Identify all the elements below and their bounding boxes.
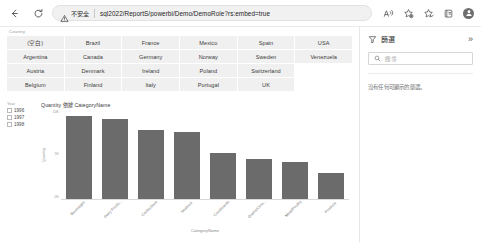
country-item[interactable]: Poland xyxy=(180,64,237,77)
browser-toolbar: 不安全 sql2022/ReportS/powerbi/Demo/DemoRol… xyxy=(0,0,481,26)
country-item[interactable]: Sweden xyxy=(238,50,295,63)
bar-slot[interactable] xyxy=(205,112,241,199)
filter-pane: 篩選 » 搜尋 沒有任何可顯示的篩選。 xyxy=(359,27,481,242)
year-checkbox[interactable] xyxy=(7,122,12,127)
reload-icon[interactable] xyxy=(30,5,46,21)
year-label: 1998 xyxy=(14,122,24,127)
favorites-icon[interactable] xyxy=(422,7,435,20)
filter-pane-empty-message: 沒有任何可顯示的篩選。 xyxy=(368,83,473,91)
bar-confections xyxy=(138,130,164,199)
bar-slot[interactable] xyxy=(169,112,205,199)
country-item[interactable]: Switzerland xyxy=(238,64,295,77)
x-tick-label: Meat/Poultry xyxy=(284,199,303,218)
country-item[interactable]: Norway xyxy=(180,50,237,63)
y-axis-title: Quantity xyxy=(42,148,46,162)
x-tick-label: Beverages xyxy=(69,200,86,217)
year-label: 1996 xyxy=(14,108,24,113)
add-to-favorites-icon[interactable] xyxy=(402,7,415,20)
y-tick-label: 5K xyxy=(47,152,59,156)
bar-slot[interactable] xyxy=(61,112,97,199)
country-item[interactable]: USA xyxy=(295,36,352,49)
country-item-empty xyxy=(295,64,352,77)
country-item[interactable]: Portugal xyxy=(180,78,237,91)
x-tick-label: Condiments xyxy=(212,199,230,217)
bar-slot[interactable] xyxy=(133,112,169,199)
country-item[interactable]: Denmark xyxy=(65,64,122,77)
x-tick-label: Confections xyxy=(140,199,158,217)
bar-dairy xyxy=(102,119,128,199)
read-aloud-icon[interactable] xyxy=(382,7,395,20)
filter-pane-header: 篩選 » xyxy=(368,34,473,44)
bars-container xyxy=(61,112,349,200)
avatar xyxy=(463,8,474,19)
country-item-empty xyxy=(295,78,352,91)
year-label: 1997 xyxy=(14,115,24,120)
bar-chart-visual: Year 1996 1997 1998 Quantity 依據 Category… xyxy=(7,101,352,237)
profile-avatar[interactable] xyxy=(462,7,475,20)
country-item[interactable]: UK xyxy=(238,78,295,91)
warning-triangle-icon xyxy=(60,9,69,18)
bar-condiments xyxy=(210,153,236,199)
address-bar[interactable]: 不安全 sql2022/ReportS/powerbi/Demo/DemoRol… xyxy=(52,5,372,21)
year-slicer-title: Year xyxy=(7,101,39,106)
x-axis-labels: Beverages Dairy Produ... Confections Sea… xyxy=(61,202,349,228)
x-tick-label: Seafood xyxy=(179,200,193,214)
x-tick-label: Grains/Cere... xyxy=(246,199,267,220)
y-tick-label: 10K xyxy=(47,110,59,114)
country-item[interactable]: Canada xyxy=(65,50,122,63)
bar-slot[interactable] xyxy=(277,112,313,199)
country-item[interactable]: Mexico xyxy=(180,36,237,49)
country-item[interactable]: Austria xyxy=(7,64,64,77)
bar-slot[interactable] xyxy=(97,112,133,199)
security-warning-label: 不安全 xyxy=(71,9,89,18)
year-slicer: Year 1996 1997 1998 xyxy=(7,101,39,129)
report-page: Country (空白) Brazil France Mexico Spain … xyxy=(0,27,359,242)
year-slicer-item[interactable]: 1997 xyxy=(7,115,39,120)
country-item[interactable]: Belgium xyxy=(7,78,64,91)
country-item[interactable]: Finland xyxy=(65,78,122,91)
filter-search-input[interactable]: 搜尋 xyxy=(368,52,473,65)
bar-meat-poultry xyxy=(282,162,308,199)
year-checkbox[interactable] xyxy=(7,115,12,120)
filter-search-placeholder: 搜尋 xyxy=(385,55,398,63)
country-item[interactable]: (空白) xyxy=(7,36,64,49)
country-item[interactable]: Italy xyxy=(122,78,179,91)
x-axis-title: CategoryName xyxy=(61,228,349,233)
chart-plot-area: Quantity 10K 5K 0K xyxy=(41,110,352,237)
url-text: sql2022/ReportS/powerbi/Demo/DemoRole?rs… xyxy=(100,10,270,17)
bar-slot[interactable] xyxy=(241,112,277,199)
bar-grains xyxy=(246,159,272,199)
chevron-double-right-icon[interactable]: » xyxy=(468,35,473,44)
search-icon xyxy=(374,55,381,62)
country-item[interactable]: Germany xyxy=(122,50,179,63)
back-arrow-icon[interactable] xyxy=(6,5,22,21)
bar-slot[interactable] xyxy=(313,112,349,199)
country-item[interactable]: Argentina xyxy=(7,50,64,63)
country-slicer: Country (空白) Brazil France Mexico Spain … xyxy=(7,29,352,99)
x-tick-label: Produce xyxy=(323,200,337,214)
country-item[interactable]: Ireland xyxy=(122,64,179,77)
filter-pane-divider xyxy=(368,73,473,74)
bar-series xyxy=(61,112,349,199)
country-item[interactable]: Spain xyxy=(238,36,295,49)
country-item[interactable]: Brazil xyxy=(65,36,122,49)
funnel-icon xyxy=(368,35,377,44)
report-canvas: Country (空白) Brazil France Mexico Spain … xyxy=(0,26,481,242)
collections-icon[interactable] xyxy=(442,7,455,20)
year-slicer-item[interactable]: 1996 xyxy=(7,108,39,113)
country-slicer-grid: (空白) Brazil France Mexico Spain USA Arge… xyxy=(7,36,352,91)
bar-produce xyxy=(318,173,344,199)
y-tick-label: 0K xyxy=(47,195,59,199)
country-item[interactable]: Venezuela xyxy=(295,50,352,63)
year-slicer-item[interactable]: 1998 xyxy=(7,122,39,127)
browser-toolbar-icons xyxy=(382,7,475,20)
year-checkbox[interactable] xyxy=(7,108,12,113)
country-item[interactable]: France xyxy=(122,36,179,49)
omnibox-divider xyxy=(94,9,95,18)
browser-window: 不安全 sql2022/ReportS/powerbi/Demo/DemoRol… xyxy=(0,0,481,242)
chart-title: Quantity 依據 CategoryName xyxy=(41,101,111,108)
bar-beverages xyxy=(66,116,92,199)
filter-pane-title: 篩選 xyxy=(381,34,396,44)
country-slicer-title: Country xyxy=(7,29,352,35)
bar-seafood xyxy=(174,132,200,199)
